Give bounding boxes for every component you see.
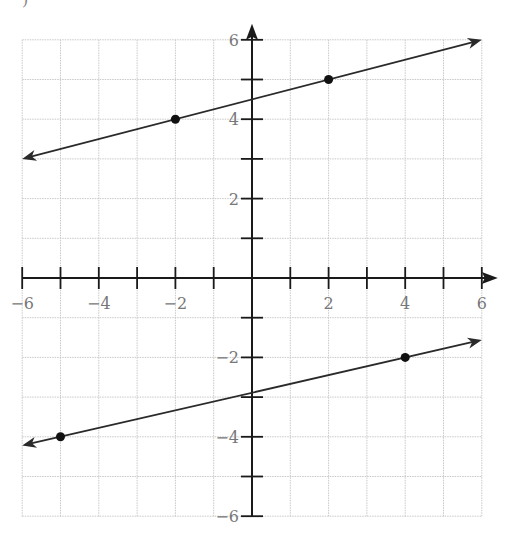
- coordinate-plane: −6−4−2246642−2−4−6: [0, 0, 510, 541]
- y-tick-label: −6: [215, 507, 239, 526]
- x-tick-label: −2: [164, 294, 188, 313]
- x-tick-label: 6: [477, 294, 487, 313]
- data-point: [171, 115, 180, 124]
- y-tick-label: −4: [215, 428, 239, 447]
- y-tick-label: −2: [215, 348, 239, 367]
- x-tick-label: −6: [10, 294, 34, 313]
- x-tick-label: −4: [87, 294, 111, 313]
- y-tick-label: 2: [229, 190, 239, 209]
- plotted-points: [56, 75, 410, 441]
- y-tick-label: 4: [229, 110, 239, 129]
- data-point: [56, 432, 65, 441]
- x-tick-label: 4: [400, 294, 410, 313]
- x-tick-label: 2: [324, 294, 334, 313]
- y-tick-label: 6: [229, 31, 239, 50]
- data-point: [324, 75, 333, 84]
- data-point: [401, 353, 410, 362]
